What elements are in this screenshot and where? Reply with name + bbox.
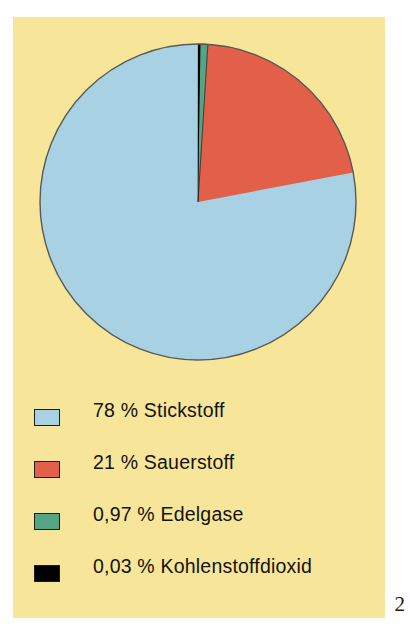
legend-item-sauerstoff: 21 % Sauerstoff <box>34 445 364 497</box>
legend-item-stickstoff: 78 % Stickstoff <box>34 393 364 445</box>
pie-chart-svg <box>36 40 360 364</box>
legend-item-edelgase: 0,97 % Edelgase <box>34 497 364 549</box>
pie-chart <box>36 40 360 364</box>
legend-swatch-kohlenstoffdioxid <box>34 565 60 582</box>
legend-label-sauerstoff: 21 % Sauerstoff <box>93 451 234 474</box>
legend-swatch-sauerstoff <box>34 461 60 478</box>
legend-label-edelgase: 0,97 % Edelgase <box>93 503 243 526</box>
legend-item-kohlenstoffdioxid: 0,03 % Kohlenstoffdioxid <box>34 549 364 601</box>
legend-label-kohlenstoffdioxid: 0,03 % Kohlenstoffdioxid <box>93 555 312 578</box>
legend-label-stickstoff: 78 % Stickstoff <box>93 399 225 422</box>
legend-swatch-edelgase <box>34 513 60 530</box>
chart-legend: 78 % Stickstoff 21 % Sauerstoff 0,97 % E… <box>34 393 364 601</box>
chart-panel: 78 % Stickstoff 21 % Sauerstoff 0,97 % E… <box>13 17 385 618</box>
legend-swatch-stickstoff <box>34 409 60 426</box>
page-number: 2 <box>395 592 406 617</box>
figure-root: 78 % Stickstoff 21 % Sauerstoff 0,97 % E… <box>0 0 410 633</box>
